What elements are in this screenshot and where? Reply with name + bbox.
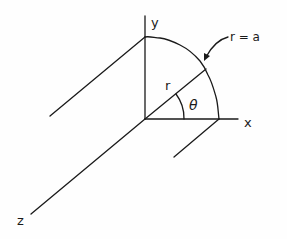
theta-arc	[176, 94, 184, 119]
boundary-label: r = a	[230, 30, 260, 44]
extrusion-line-bottom	[174, 119, 219, 157]
leader-arrow-line	[206, 37, 228, 57]
diagram-canvas: y x z r θ r = a	[0, 0, 287, 239]
theta-label: θ	[189, 97, 198, 113]
x-axis-label: x	[244, 115, 252, 130]
extrusion-line-top	[50, 37, 145, 116]
y-axis-label: y	[151, 15, 159, 30]
z-axis-label: z	[17, 213, 24, 228]
radius-label: r	[165, 78, 171, 93]
z-axis-line	[31, 119, 145, 214]
diagram-svg: y x z r θ r = a	[0, 0, 287, 239]
